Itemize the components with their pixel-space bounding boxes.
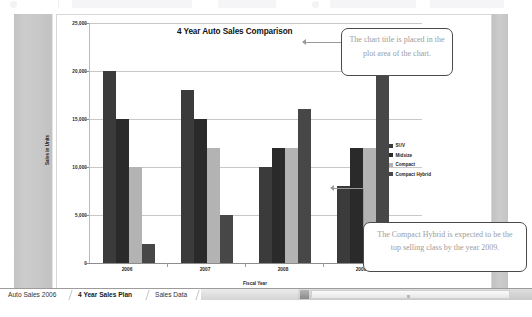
x-axis-title: Fiscal Year (89, 281, 421, 286)
x-category-separator (323, 263, 324, 267)
legend-label: Compact (396, 162, 416, 167)
bar-midsize-2008[interactable] (272, 148, 285, 263)
chart-title[interactable]: 4 Year Auto Sales Comparison (177, 27, 293, 36)
callout-title-leader (306, 42, 342, 43)
callout-hybrid-arrow-icon (330, 185, 334, 191)
toolbar-icon-1[interactable] (10, 1, 17, 8)
sheet-tab-auto-sales-2006[interactable]: Auto Sales 2006 (4, 289, 60, 300)
bar-suv-2009[interactable] (337, 186, 350, 263)
legend-swatch-icon (389, 172, 393, 176)
bar-midsize-2007[interactable] (194, 119, 207, 263)
sheet-tab-divider (195, 290, 199, 300)
toolbar-label-1 (72, 0, 192, 8)
legend-swatch-icon (389, 153, 393, 157)
y-tick-label: 0 (59, 261, 87, 266)
bar-compact-2006[interactable] (129, 167, 142, 263)
bar-compact-2008[interactable] (285, 148, 298, 263)
y-tick-label: 25,000 (59, 21, 87, 26)
bar-suv-2008[interactable] (259, 167, 272, 263)
legend-item-compact-hybrid: Compact Hybrid (389, 172, 459, 177)
spreadsheet-chart-sheet: 25,000 20,000 15,000 10,000 5,000 0 Sale… (0, 0, 532, 317)
scrollbar-grip-icon (407, 295, 410, 298)
x-category-separator (245, 263, 246, 267)
worksheet-surface[interactable]: 25,000 20,000 15,000 10,000 5,000 0 Sale… (0, 11, 532, 288)
bar-compact-hybrid-2007[interactable] (220, 215, 233, 263)
bar-compact-hybrid-2008[interactable] (298, 109, 311, 263)
legend-label: Compact Hybrid (396, 172, 431, 177)
sheet-tab-bar: Auto Sales 2006 4 Year Sales Plan Sales … (0, 288, 532, 317)
sheet-tab-divider (145, 290, 149, 300)
chart-legend[interactable]: SUV Midsize Compact Compact Hybrid (389, 143, 459, 181)
legend-swatch-icon (389, 144, 393, 148)
bar-suv-2006[interactable] (103, 71, 116, 263)
sheet-tabs-strip: Auto Sales 2006 4 Year Sales Plan Sales … (0, 288, 532, 301)
callout-hybrid-leader-h (334, 188, 364, 189)
legend-label: Midsize (396, 153, 413, 158)
legend-item-midsize: Midsize (389, 153, 459, 158)
y-tick-label: 10,000 (59, 165, 87, 170)
sheet-tab-sales-data[interactable]: Sales Data (151, 289, 191, 300)
y-axis: 25,000 20,000 15,000 10,000 5,000 0 (57, 23, 87, 263)
x-tick-label-2007: 2007 (175, 267, 235, 272)
callout-chart-title[interactable]: The chart title is placed in the plot ar… (341, 28, 453, 76)
toolbar-separator-1 (58, 0, 59, 8)
sheet-tab-4-year-sales-plan[interactable]: 4 Year Sales Plan (74, 289, 136, 300)
callout-compact-hybrid[interactable]: The Compact Hybrid is expected to be the… (363, 222, 527, 272)
callout-title-arrow-icon (302, 39, 306, 45)
y-tick-label: 15,000 (59, 117, 87, 122)
bar-midsize-2009[interactable] (350, 148, 363, 263)
toolbar-label-4 (430, 0, 504, 8)
bar-compact-2007[interactable] (207, 148, 220, 263)
bar-suv-2007[interactable] (181, 90, 194, 263)
sheet-tab-divider (68, 290, 72, 300)
legend-label: SUV (396, 143, 405, 148)
sheet-tab-empty-area[interactable] (201, 289, 299, 300)
x-category-separator (167, 263, 168, 267)
y-tick-label: 5,000 (59, 213, 87, 218)
toolbar-icon-2[interactable] (312, 1, 319, 8)
bar-compact-hybrid-2006[interactable] (142, 244, 155, 263)
toolbar-label-3 (330, 0, 416, 8)
legend-item-suv: SUV (389, 143, 459, 148)
toolbar-strip (0, 0, 532, 11)
x-tick-label-2006: 2006 (97, 267, 157, 272)
y-tick-label: 20,000 (59, 69, 87, 74)
horizontal-scrollbar-thumb[interactable] (311, 290, 510, 299)
x-tick-label-2008: 2008 (253, 267, 313, 272)
scroll-left-button-icon[interactable] (300, 290, 309, 299)
horizontal-scrollbar[interactable] (298, 289, 532, 300)
bar-midsize-2006[interactable] (116, 119, 129, 263)
legend-item-compact: Compact (389, 162, 459, 167)
toolbar-label-2 (218, 0, 276, 8)
legend-swatch-icon (389, 163, 393, 167)
y-axis-title: Sales in Units (45, 135, 50, 165)
